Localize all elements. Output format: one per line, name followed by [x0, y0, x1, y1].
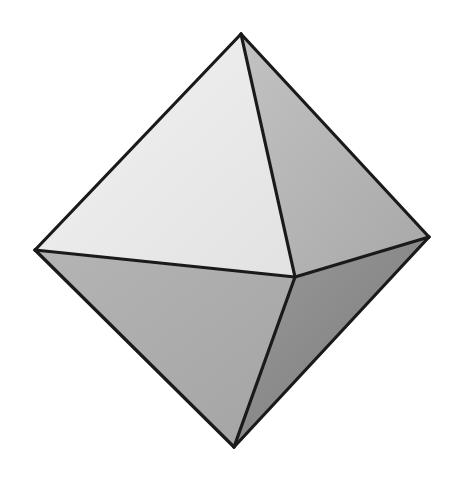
octahedron-figure — [0, 0, 457, 482]
